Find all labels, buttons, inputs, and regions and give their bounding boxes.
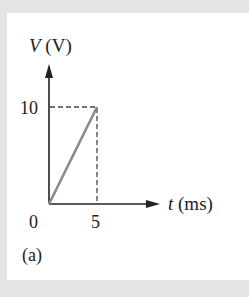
voltage-ramp-chart: V (V) 10 t (ms) 0 5 (a): [0, 0, 249, 297]
x-tick-label-5: 5: [91, 212, 100, 232]
x-axis-label: t (ms): [168, 193, 213, 215]
x-axis-arrow-icon: [146, 200, 160, 208]
y-tick-label-10: 10: [20, 98, 38, 118]
voltage-ramp-line: [49, 107, 97, 204]
y-axis-arrow-icon: [45, 64, 53, 78]
x-tick-label-0: 0: [29, 212, 38, 232]
subfigure-label: (a): [22, 245, 42, 266]
y-axis-label: V (V): [29, 35, 72, 57]
